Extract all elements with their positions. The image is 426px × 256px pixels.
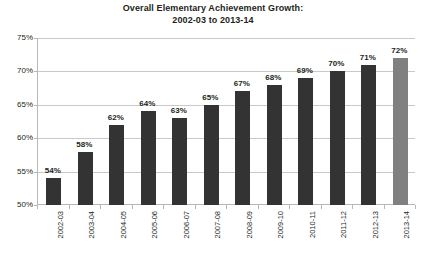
gridline — [38, 172, 415, 173]
bar — [46, 178, 61, 205]
x-axis-tick-label: 2011-12 — [340, 211, 348, 238]
bar-value-label: 72% — [386, 47, 412, 55]
x-axis-tick-label: 2010-11 — [309, 211, 317, 238]
bar — [298, 78, 313, 205]
bar-value-label: 70% — [323, 60, 349, 68]
x-axis-tick-label: 2002-03 — [57, 211, 65, 239]
bar — [330, 71, 345, 205]
y-axis-tick-label: 55% — [5, 168, 33, 176]
gridline — [38, 38, 415, 39]
chart-title-line-1: Overall Elementary Achievement Growth: — [123, 3, 304, 13]
bar-value-label: 58% — [71, 141, 97, 149]
bar-value-label: 68% — [260, 74, 286, 82]
gridline — [38, 138, 415, 139]
bar-value-label: 62% — [103, 114, 129, 122]
x-axis-tick-label: 2008-09 — [246, 211, 254, 239]
x-axis-tick-mark — [163, 205, 164, 209]
bar-value-label: 63% — [166, 107, 192, 115]
x-axis-tick-label: 2003-04 — [88, 211, 96, 239]
y-axis-tick-label: 60% — [5, 134, 33, 142]
bar-value-label: 67% — [229, 80, 255, 88]
x-axis-tick-mark — [258, 205, 259, 209]
x-axis-tick-label: 2005-06 — [151, 211, 159, 239]
gridline — [38, 71, 415, 72]
bar — [204, 105, 219, 205]
bar-value-label: 69% — [292, 67, 318, 75]
bar — [235, 91, 250, 205]
x-axis-tick-label: 2007-08 — [214, 211, 222, 239]
x-axis-tick-mark — [69, 205, 70, 209]
y-axis-tick-label: 50% — [5, 201, 33, 209]
bar — [393, 58, 408, 205]
x-axis-tick-mark — [321, 205, 322, 209]
bar — [361, 65, 376, 205]
x-axis-tick-mark — [37, 205, 38, 209]
bar-value-label: 71% — [355, 54, 381, 62]
y-axis-tick-label: 70% — [5, 67, 33, 75]
x-axis-tick-label: 2009-10 — [277, 211, 285, 239]
bar-value-label: 65% — [197, 94, 223, 102]
bar — [78, 152, 93, 205]
bar-value-label: 54% — [40, 167, 66, 175]
bar — [172, 118, 187, 205]
bar — [141, 111, 156, 205]
x-axis-tick-mark — [384, 205, 385, 209]
y-axis-tick-label: 65% — [5, 101, 33, 109]
bar-value-label: 64% — [134, 100, 160, 108]
x-axis-tick-mark — [352, 205, 353, 209]
y-axis-tick-label: 75% — [5, 34, 33, 42]
gridline — [38, 105, 415, 106]
x-axis-tick-label: 2013-14 — [403, 211, 411, 239]
x-axis-tick-label: 2012-13 — [372, 211, 380, 239]
bar — [267, 85, 282, 205]
x-axis-tick-mark — [100, 205, 101, 209]
plot-area — [37, 38, 415, 205]
x-axis-tick-mark — [195, 205, 196, 209]
x-axis-tick-label: 2004-05 — [120, 211, 128, 239]
x-axis-tick-mark — [289, 205, 290, 209]
chart-title-line-2: 2002-03 to 2013-14 — [0, 15, 426, 27]
x-axis-tick-mark — [415, 205, 416, 209]
achievement-growth-bar-chart: Overall Elementary Achievement Growth: 2… — [0, 0, 426, 256]
x-axis-tick-label: 2006-07 — [183, 211, 191, 239]
bar — [109, 125, 124, 205]
x-axis-tick-mark — [132, 205, 133, 209]
chart-title: Overall Elementary Achievement Growth: 2… — [0, 3, 426, 26]
x-axis-tick-mark — [226, 205, 227, 209]
